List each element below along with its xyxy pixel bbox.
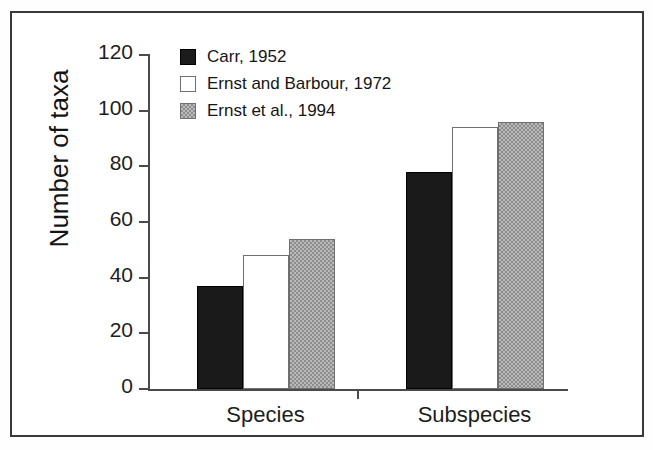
y-axis-tick xyxy=(139,165,148,167)
x-axis-tick xyxy=(357,390,359,399)
legend-item: Ernst and Barbour, 1972 xyxy=(180,72,430,96)
bar-species-series-3 xyxy=(289,239,335,389)
y-axis-tick xyxy=(139,332,148,334)
y-axis-tick xyxy=(139,277,148,279)
x-axis-category-label: Subspecies xyxy=(385,402,565,428)
bar-species-series-1 xyxy=(197,286,243,389)
bar-subspecies-series-3 xyxy=(498,122,544,389)
legend-item: Carr, 1952 xyxy=(180,45,430,69)
y-axis-tick xyxy=(139,110,148,112)
legend-item-label: Ernst and Barbour, 1972 xyxy=(207,74,391,94)
y-axis-tick xyxy=(139,388,148,390)
y-axis-tick xyxy=(139,221,148,223)
y-axis-tick-label: 20 xyxy=(13,318,133,342)
legend-swatch-icon xyxy=(180,103,196,119)
legend-swatch-icon xyxy=(180,49,196,65)
figure-border: 020406080100120 Number of taxa SpeciesSu… xyxy=(10,11,644,437)
y-axis-tick xyxy=(139,54,148,56)
figure-canvas: 020406080100120 Number of taxa SpeciesSu… xyxy=(0,0,653,450)
x-axis-category-label: Species xyxy=(176,402,356,428)
legend-swatch-icon xyxy=(180,76,196,92)
bar-subspecies-series-1 xyxy=(406,172,452,389)
bar-species-series-2 xyxy=(243,255,289,389)
chart-legend: Carr, 1952Ernst and Barbour, 1972Ernst e… xyxy=(180,45,430,126)
bar-subspecies-series-2 xyxy=(452,127,498,389)
y-axis-tick-label: 0 xyxy=(13,374,133,398)
legend-item: Ernst et al., 1994 xyxy=(180,99,430,123)
legend-item-label: Ernst et al., 1994 xyxy=(207,101,336,121)
y-axis-title: Number of taxa xyxy=(44,9,75,309)
legend-item-label: Carr, 1952 xyxy=(207,47,286,67)
